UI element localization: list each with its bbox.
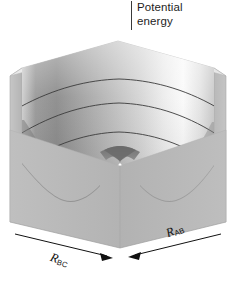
potential-energy-label-line1: Potential xyxy=(137,1,183,15)
potential-energy-label-line2: energy xyxy=(137,15,183,29)
potential-energy-axis-callout: Potential energy xyxy=(131,1,183,30)
potential-energy-surface-figure: Potential energy RBC RAB xyxy=(0,0,230,282)
pes-illustration xyxy=(0,0,230,282)
potential-energy-axis-rule xyxy=(131,1,132,30)
potential-energy-axis-label: Potential energy xyxy=(137,1,183,28)
